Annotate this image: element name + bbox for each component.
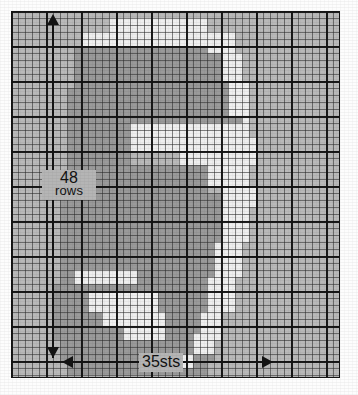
chart-cell-region	[130, 137, 256, 151]
chart-cell-region	[214, 242, 242, 277]
chart-cell-region	[130, 123, 249, 137]
stitch-count-label: 35sts	[139, 353, 183, 372]
chart-cell-region	[221, 207, 249, 242]
chart-cell-region	[74, 67, 228, 88]
chart-cell-region	[179, 151, 256, 165]
arrow-left-icon	[62, 356, 73, 368]
chart-cell-region	[67, 137, 130, 165]
arrow-down-icon	[47, 347, 59, 358]
chart-cell-region	[102, 312, 165, 326]
chart-cell-region	[207, 277, 235, 312]
chart-cell-region	[88, 291, 158, 312]
row-count-unit: rows	[42, 184, 96, 198]
chart-cell-region	[67, 88, 235, 116]
chart-cell-region	[109, 18, 207, 32]
arrow-right-icon	[262, 356, 273, 368]
chart-cell-region	[221, 186, 256, 207]
chart-cell-region	[60, 228, 221, 256]
row-count-label: 48 rows	[42, 170, 96, 200]
chart-cell-region	[74, 270, 137, 284]
chart-page: 48 rows 35sts	[0, 0, 358, 395]
chart-cell-region	[123, 326, 165, 340]
chart-cell-region	[74, 46, 221, 67]
chart-cell-region	[221, 53, 242, 81]
chart-cell-region	[207, 32, 235, 53]
chart-cell-region	[207, 165, 249, 186]
arrow-up-icon	[47, 14, 59, 25]
chart-cell-region	[81, 32, 207, 46]
chart-cell-region	[193, 333, 214, 354]
